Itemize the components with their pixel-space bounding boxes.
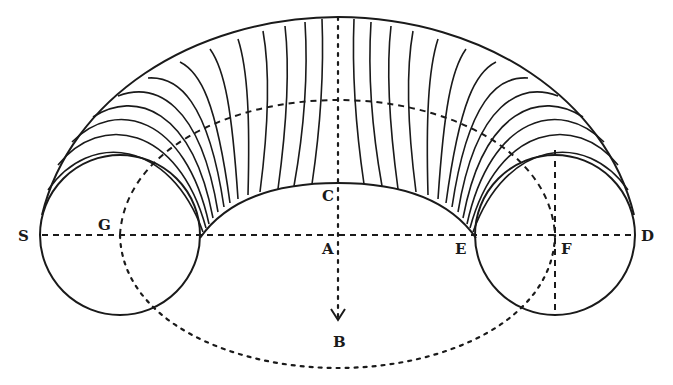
label-a: A [321, 240, 334, 258]
label-b: B [333, 333, 346, 351]
label-e: E [455, 240, 466, 258]
torus-diagram: S G C A E F D B [0, 0, 673, 385]
label-f: F [561, 240, 572, 258]
label-c: C [322, 187, 334, 205]
label-g: G [98, 216, 111, 234]
label-d: D [641, 227, 654, 245]
label-s: S [18, 227, 29, 245]
